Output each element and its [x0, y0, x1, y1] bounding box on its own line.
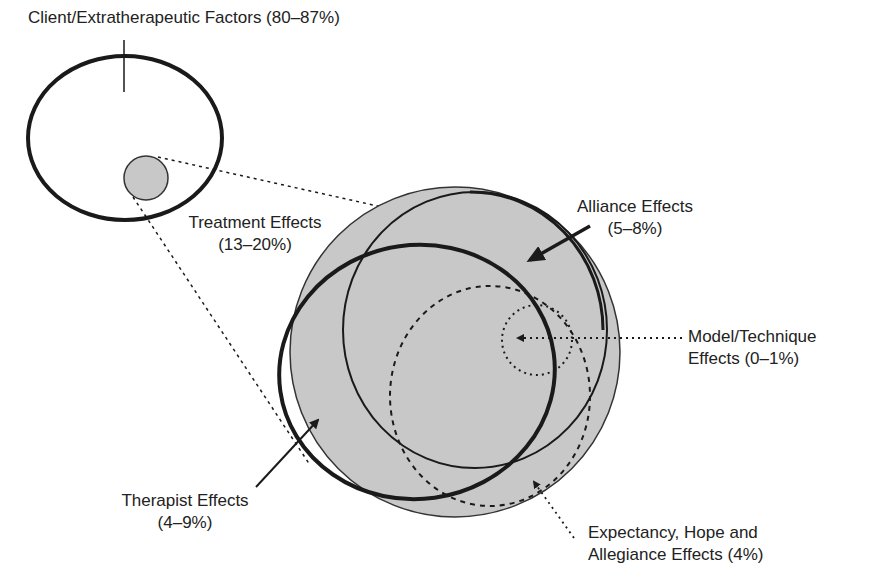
expectancy-effects-title: Expectancy, Hope and [588, 522, 763, 544]
expectancy-effects-label: Expectancy, Hope and Allegiance Effects … [588, 522, 763, 566]
client-factors-label: Client/Extratherapeutic Factors (80–87%) [28, 7, 340, 29]
treatment-effects-label: Treatment Effects (13–20%) [180, 212, 330, 256]
alliance-effects-title: Alliance Effects [560, 196, 710, 218]
therapist-effects-label: Therapist Effects (4–9%) [100, 490, 270, 534]
expectancy-effects-range: Allegiance Effects (4%) [588, 544, 763, 566]
treatment-effects-title: Treatment Effects [180, 212, 330, 234]
therapist-effects-title: Therapist Effects [100, 490, 270, 512]
alliance-effects-range: (5–8%) [560, 218, 710, 240]
alliance-effects-label: Alliance Effects (5–8%) [560, 196, 710, 240]
treatment-effects-range: (13–20%) [180, 234, 330, 256]
model-technique-title: Model/Technique [688, 326, 817, 348]
model-technique-range: Effects (0–1%) [688, 348, 817, 370]
therapist-effects-range: (4–9%) [100, 512, 270, 534]
client-factors-circle [28, 56, 222, 220]
model-technique-label: Model/Technique Effects (0–1%) [688, 326, 817, 370]
treatment-effects-circle [124, 156, 168, 200]
